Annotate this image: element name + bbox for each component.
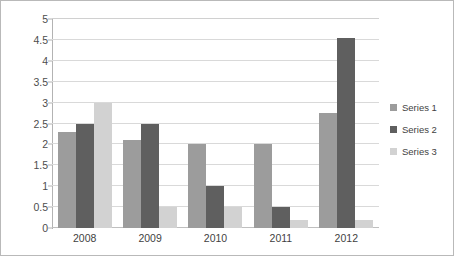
bar-group-bars — [117, 19, 182, 228]
bar-chart: 00.511.522.533.544.55 200820092010201120… — [0, 0, 454, 256]
bar-group — [314, 19, 379, 228]
plot-area — [52, 19, 379, 228]
bar — [337, 38, 355, 228]
bar — [224, 207, 242, 228]
y-axis-tick-label: 1 — [4, 180, 48, 192]
x-axis-tick-label: 2009 — [138, 232, 161, 244]
y-axis-tick-label: 0 — [4, 222, 48, 234]
x-axis-tick-label: 2012 — [335, 232, 358, 244]
legend-label: Series 2 — [402, 124, 437, 135]
bar — [141, 124, 159, 229]
y-axis: 00.511.522.533.544.55 — [1, 19, 48, 228]
bar — [355, 220, 373, 228]
x-axis: 20082009201020112012 — [52, 232, 379, 252]
bar — [272, 207, 290, 228]
x-axis-tick-label: 2010 — [204, 232, 227, 244]
y-axis-tick-label: 4.5 — [4, 34, 48, 46]
bar — [76, 124, 94, 229]
y-axis-tick-label: 4 — [4, 55, 48, 67]
bar — [206, 186, 224, 228]
y-axis-tick-label: 3 — [4, 97, 48, 109]
bar — [319, 113, 337, 228]
x-axis-tick-label: 2008 — [73, 232, 96, 244]
bar — [94, 103, 112, 228]
y-axis-tick-label: 1.5 — [4, 159, 48, 171]
chart-legend: Series 1Series 2Series 3 — [390, 102, 437, 168]
bar — [188, 144, 206, 228]
bar — [58, 132, 76, 228]
y-axis-tick-label: 3.5 — [4, 76, 48, 88]
bar-group — [117, 19, 182, 228]
bar-group-bars — [314, 19, 379, 228]
y-axis-tick-label: 0.5 — [4, 201, 48, 213]
bar — [254, 144, 272, 228]
legend-label: Series 3 — [402, 146, 437, 157]
legend-swatch-icon — [390, 148, 397, 155]
y-axis-tick-label: 2 — [4, 138, 48, 150]
legend-label: Series 1 — [402, 102, 437, 113]
bar-group-bars — [183, 19, 248, 228]
legend-swatch-icon — [390, 126, 397, 133]
y-axis-tick-label: 5 — [4, 13, 48, 25]
bar — [290, 220, 308, 228]
bar — [159, 207, 177, 228]
legend-swatch-icon — [390, 104, 397, 111]
bar-group — [248, 19, 313, 228]
bar — [123, 140, 141, 228]
bar-group — [183, 19, 248, 228]
x-axis-tick-label: 2011 — [270, 232, 293, 244]
bar-group — [52, 19, 117, 228]
legend-item[interactable]: Series 3 — [390, 146, 437, 157]
bar-group-bars — [52, 19, 117, 228]
y-axis-tick-label: 2.5 — [4, 118, 48, 130]
legend-item[interactable]: Series 2 — [390, 124, 437, 135]
legend-item[interactable]: Series 1 — [390, 102, 437, 113]
bar-group-bars — [248, 19, 313, 228]
